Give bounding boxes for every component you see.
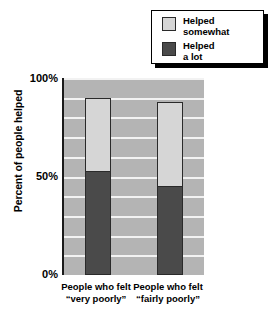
bar-very-poorly[interactable]: [85, 98, 111, 275]
legend-item-helped-somewhat: Helped somewhat: [162, 16, 263, 37]
y-tick-label-100: 100%: [22, 72, 58, 84]
y-tick-label-0: 0%: [22, 268, 58, 280]
stacked-bar-chart: Percent of people helped 100% 50% 0% Peo…: [0, 0, 270, 329]
legend: Helped somewhat Helped a lot: [151, 10, 264, 64]
legend-label-helped-a-lot: Helped a lot: [183, 41, 215, 62]
bar-segment-helped-a-lot: [158, 186, 182, 274]
y-axis-tick-labels: 100% 50% 0%: [22, 0, 58, 329]
y-tick-label-50: 50%: [22, 170, 58, 182]
x-tick-label-fairly-poorly: People who felt “fairly poorly”: [125, 281, 211, 304]
bar-segment-helped-somewhat: [86, 99, 110, 171]
legend-item-helped-a-lot: Helped a lot: [162, 41, 263, 62]
legend-swatch-light-icon: [162, 17, 176, 31]
gridline-100: [64, 78, 204, 80]
bar-segment-helped-a-lot: [86, 171, 110, 274]
bar-fairly-poorly[interactable]: [157, 102, 183, 275]
plot-area: [62, 78, 204, 275]
legend-label-helped-somewhat: Helped somewhat: [183, 16, 229, 37]
bar-segment-helped-somewhat: [158, 103, 182, 187]
legend-swatch-dark-icon: [162, 42, 176, 56]
